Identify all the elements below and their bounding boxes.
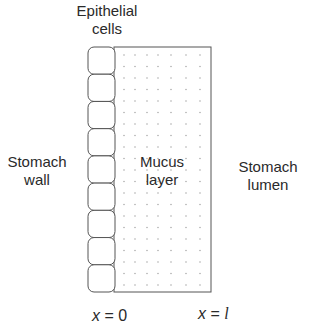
mucus-dot xyxy=(134,158,135,159)
mucus-dot xyxy=(185,77,186,78)
epithelial-cell xyxy=(88,101,115,128)
epithelial-cell xyxy=(88,265,115,292)
mucus-dot xyxy=(146,273,147,274)
mucus-dot xyxy=(185,112,186,113)
mucus-dot xyxy=(170,112,171,113)
mucus-dot xyxy=(157,89,158,90)
mucus-dot xyxy=(185,261,186,262)
equals-right: = xyxy=(206,305,224,322)
mucus-dot xyxy=(185,146,186,147)
mucus-dot xyxy=(199,284,200,285)
mucus-dot xyxy=(123,215,124,216)
mucus-dot xyxy=(134,135,135,136)
mucus-dot xyxy=(146,204,147,205)
mucus-dot xyxy=(199,215,200,216)
mucus-dot xyxy=(170,89,171,90)
mucus-dot xyxy=(170,250,171,251)
mucus-dot xyxy=(185,284,186,285)
x-var-left: x xyxy=(92,307,100,324)
epithelial-label-line1: Epithelial xyxy=(62,2,152,20)
mucus-dot xyxy=(157,100,158,101)
mucus-dot xyxy=(170,192,171,193)
mucus-dot xyxy=(157,66,158,67)
mucus-dot xyxy=(185,273,186,274)
x-equals-l-label: x = l xyxy=(198,305,229,323)
mucus-dot xyxy=(185,66,186,67)
mucus-dot xyxy=(199,66,200,67)
mucus-dot xyxy=(146,238,147,239)
stomach-lumen-line2: lumen xyxy=(233,176,303,194)
mucus-dot xyxy=(199,169,200,170)
epithelial-cell xyxy=(88,238,115,265)
mucus-dot xyxy=(123,192,124,193)
mucus-dot xyxy=(199,238,200,239)
mucus-dot xyxy=(157,250,158,251)
mucus-dot xyxy=(134,284,135,285)
mucus-dot xyxy=(146,146,147,147)
mucus-dot xyxy=(146,250,147,251)
mucus-dot xyxy=(170,273,171,274)
mucus-dot xyxy=(185,123,186,124)
mucus-dot xyxy=(146,215,147,216)
mucus-dot xyxy=(134,261,135,262)
mucus-dot xyxy=(157,146,158,147)
stomach-lumen-label: Stomach lumen xyxy=(233,158,303,194)
mucus-dot xyxy=(146,227,147,228)
mucus-dot xyxy=(123,261,124,262)
mucus-dot xyxy=(199,181,200,182)
mucus-dot xyxy=(199,192,200,193)
mucus-dot xyxy=(134,112,135,113)
mucus-dot xyxy=(170,261,171,262)
mucus-dot xyxy=(123,77,124,78)
mucus-dot xyxy=(146,192,147,193)
mucus-dot xyxy=(123,273,124,274)
mucus-dot xyxy=(185,135,186,136)
x-equals-zero-label: x = 0 xyxy=(92,307,127,325)
mucus-dot xyxy=(170,284,171,285)
mucus-dot xyxy=(123,135,124,136)
mucus-dot xyxy=(185,192,186,193)
mucus-dot xyxy=(146,89,147,90)
mucus-dot xyxy=(157,261,158,262)
mucus-dot xyxy=(123,284,124,285)
epithelial-cell xyxy=(88,210,115,237)
mucus-dot xyxy=(146,284,147,285)
mucus-dot xyxy=(123,181,124,182)
x-var-right: x xyxy=(198,305,206,322)
mucus-dot xyxy=(199,204,200,205)
mucus-dot xyxy=(185,100,186,101)
mucus-dot xyxy=(170,66,171,67)
mucus-dot xyxy=(134,181,135,182)
mucus-dot xyxy=(199,250,200,251)
epithelial-cells-stack xyxy=(88,47,115,292)
mucus-dot xyxy=(134,273,135,274)
mucus-dot xyxy=(146,261,147,262)
mucus-dot xyxy=(134,146,135,147)
mucus-dot xyxy=(123,112,124,113)
mucus-dot xyxy=(123,66,124,67)
mucus-dot xyxy=(146,54,147,55)
mucus-dot xyxy=(123,227,124,228)
mucus-dot xyxy=(185,250,186,251)
mucus-dot xyxy=(134,250,135,251)
mucus-dot xyxy=(185,204,186,205)
mucus-dot xyxy=(157,77,158,78)
mucus-dot xyxy=(134,123,135,124)
mucus-dot xyxy=(123,238,124,239)
mucus-dot xyxy=(146,123,147,124)
mucus-dot xyxy=(123,204,124,205)
mucus-layer-label: Mucus layer xyxy=(137,153,187,189)
mucus-dot xyxy=(123,250,124,251)
mucus-dot xyxy=(170,54,171,55)
epithelial-label-line2: cells xyxy=(62,20,152,38)
mucus-dot xyxy=(199,112,200,113)
mucus-dot xyxy=(157,238,158,239)
mucus-dot xyxy=(123,89,124,90)
mucus-dot xyxy=(134,89,135,90)
mucus-dot xyxy=(157,112,158,113)
mucus-dot xyxy=(146,112,147,113)
mucus-dot xyxy=(157,123,158,124)
mucus-dot xyxy=(185,238,186,239)
mucus-dot xyxy=(199,146,200,147)
mucus-dot xyxy=(157,135,158,136)
